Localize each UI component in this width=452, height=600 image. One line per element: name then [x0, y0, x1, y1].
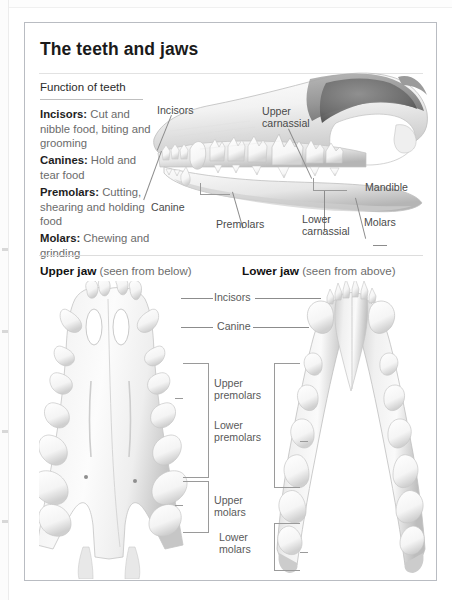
- bracket-upper-premolars: [183, 363, 209, 478]
- function-term-canines: Canines:: [40, 154, 88, 166]
- upper-jaw-illustration: [39, 281, 204, 579]
- label-canine-jaw: Canine: [217, 320, 251, 332]
- scan-tick: [2, 430, 8, 433]
- bracket-tick-upper-premolars: [175, 398, 183, 399]
- label-upper-premolars: Upper premolars: [214, 377, 261, 402]
- bracket-tick-upper-molars: [175, 505, 183, 506]
- label-canine-skull: Canine: [151, 201, 185, 213]
- function-of-teeth-heading: Function of teeth: [40, 81, 126, 93]
- bracket-molars-skull: [313, 178, 347, 191]
- scan-tick: [2, 248, 8, 251]
- function-term-premolars: Premolars:: [40, 186, 99, 198]
- function-entry-canines: Canines: Hold and tear food: [40, 153, 152, 182]
- page-root: The teeth and jaws Function of teeth Inc…: [0, 0, 452, 600]
- function-term-molars: Molars:: [40, 232, 80, 244]
- function-term-incisors: Incisors:: [40, 108, 87, 120]
- bracket-premolars-skull: [200, 183, 230, 195]
- scan-edge-left: [0, 0, 9, 600]
- leader-canine-left: [181, 327, 213, 328]
- leader-molars-skull-tail: [373, 245, 387, 246]
- label-premolars-skull: Premolars: [216, 218, 264, 230]
- label-upper-carnassial: Upper carnassial: [262, 105, 310, 130]
- content-panel: The teeth and jaws Function of teeth Inc…: [24, 22, 437, 581]
- label-incisors-jaw: Incisors: [214, 291, 251, 303]
- bracket-lower-molars: [274, 523, 300, 571]
- label-mandible: Mandible: [365, 181, 408, 193]
- skull-lateral-illustration: [140, 61, 430, 241]
- upper-jaw-heading: Upper jaw (seen from below): [40, 264, 192, 278]
- lower-jaw-heading-view: (seen from above): [299, 265, 396, 277]
- scan-tick: [2, 520, 8, 523]
- leader-canine-right: [253, 327, 309, 328]
- upper-jaw-heading-name: Upper jaw: [40, 264, 96, 278]
- section-divider: [39, 255, 423, 256]
- page-title: The teeth and jaws: [40, 39, 198, 60]
- lower-jaw-heading-name: Lower jaw: [242, 264, 299, 278]
- bracket-upper-molars: [183, 481, 209, 533]
- label-lower-premolars: Lower premolars: [214, 419, 261, 444]
- label-lower-carnassial: Lower carnassial: [302, 213, 350, 238]
- label-upper-molars: Upper molars: [214, 494, 246, 519]
- scan-edge-top: [0, 0, 452, 8]
- label-incisors-skull: Incisors: [157, 104, 194, 116]
- bracket-tick-lower-premolars: [300, 441, 308, 442]
- bracket-lower-premolars: [274, 363, 300, 488]
- function-entry-incisors: Incisors: Cut and nibble food, biting an…: [40, 107, 152, 151]
- function-heading-divider: [40, 99, 143, 100]
- label-lower-molars: Lower molars: [219, 531, 251, 556]
- leader-incisors-left: [181, 298, 213, 299]
- upper-jaw-heading-view: (seen from below): [96, 265, 191, 277]
- scan-tick: [2, 330, 8, 333]
- label-molars-skull: Molars: [364, 216, 396, 228]
- function-entry-premolars: Premolars: Cutting, shearing and holding…: [40, 185, 152, 229]
- bracket-tick-lower-molars: [300, 552, 308, 553]
- leader-incisors-right: [255, 298, 321, 299]
- lower-jaw-heading: Lower jaw (seen from above): [242, 264, 396, 278]
